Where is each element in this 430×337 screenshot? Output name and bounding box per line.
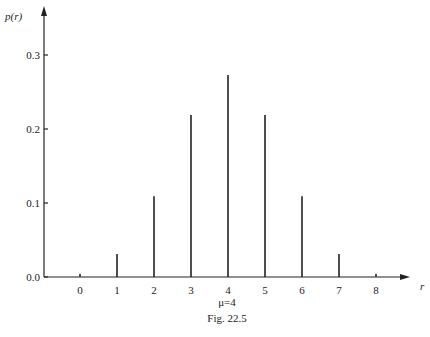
y-axis-arrow-icon [41,6,47,16]
y-tick-label: 0.0 [26,271,40,283]
x-tick-label: 4 [225,284,231,296]
axes [44,12,402,277]
figure-caption: Fig. 22.5 [207,312,247,324]
x-tick-label: 1 [114,284,120,296]
x-tick-label: 2 [151,284,157,296]
bars [80,75,376,277]
x-tick-label: 6 [299,284,305,296]
x-tick-label: 8 [373,284,379,296]
x-tick-label: 3 [188,284,194,296]
y-tick-label: 0.1 [26,197,40,209]
probability-chart: 0.00.10.20.3 012345678 p(r) r μ=4 Fig. 2… [0,0,430,337]
y-axis-label: p(r) [4,10,22,23]
x-tick-label: 5 [262,284,268,296]
x-tick-label: 0 [77,284,83,296]
y-ticks: 0.00.10.20.3 [26,49,48,283]
mu-annotation: μ=4 [218,296,236,308]
y-tick-label: 0.3 [26,49,40,61]
x-axis-label: r [420,280,425,292]
x-tick-labels: 012345678 [77,284,379,296]
x-tick-label: 7 [336,284,342,296]
x-axis-arrow-icon [400,274,410,280]
y-tick-label: 0.2 [26,123,40,135]
